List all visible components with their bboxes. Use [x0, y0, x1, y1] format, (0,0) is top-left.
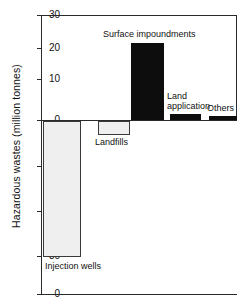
plot-frame-top	[41, 15, 237, 16]
bar-label-injection-wells: Injection wells	[45, 261, 101, 271]
y-axis-title: Hazardous wastes (million tonnes)	[10, 26, 22, 266]
bar-others	[209, 116, 237, 120]
hazardous-waste-bar-chart: Hazardous wastes (million tonnes) 30 20 …	[0, 0, 246, 305]
plot-frame-bottom	[41, 294, 237, 295]
bar-label-land-application: Land application	[167, 91, 210, 111]
y-axis-line	[41, 15, 42, 295]
plot-frame-right	[236, 15, 237, 121]
bar-label-others: Others	[207, 103, 234, 113]
bar-injection-wells	[43, 121, 81, 257]
bar-surface-impoundments	[131, 43, 164, 120]
bar-land-application	[170, 114, 201, 120]
bar-label-surface-impoundments: Surface impoundments	[103, 29, 196, 39]
bar-landfills	[98, 121, 130, 135]
plot-area: Injection wells Landfills Surface impoun…	[41, 15, 237, 295]
bar-label-landfills: Landfills	[95, 137, 128, 147]
